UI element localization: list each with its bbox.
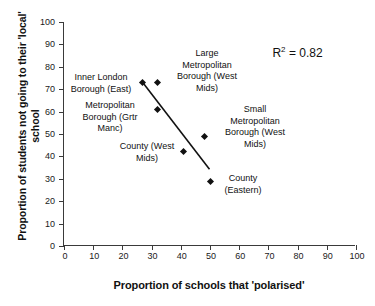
x-tick-label: 90 [323,251,333,261]
x-tick: 10 [93,245,94,250]
x-tick: 90 [327,245,328,250]
y-tick-label: 10 [45,219,55,229]
y-tick-label: 30 [45,174,55,184]
x-tick: 30 [152,245,153,250]
y-tick-label: 100 [40,17,55,27]
y-tick-label: 40 [45,151,55,161]
y-tick-label: 70 [45,84,55,94]
x-tick: 40 [181,245,182,250]
y-tick: 30 [59,179,64,180]
y-tick-label: 0 [50,241,55,251]
x-tick: 70 [268,245,269,250]
annotation-small-metropolitan: Small Metropolitan Borough (West Mids) [209,104,301,150]
x-tick-label: 40 [177,251,187,261]
x-tick: 60 [239,245,240,250]
x-tick-label: 10 [89,251,99,261]
x-tick: 80 [298,245,299,250]
data-point-marker [154,79,161,86]
y-axis-title: Proportion of students not going to thei… [16,1,42,251]
r-squared-value: = 0.82 [286,46,323,60]
y-tick: 40 [59,156,64,157]
r-squared-annotation: R2 = 0.82 [272,45,322,60]
y-tick: 100 [59,22,64,23]
y-tick-label: 20 [45,196,55,206]
x-tick: 50 [210,245,211,250]
x-tick-label: 20 [118,251,128,261]
x-tick: 20 [122,245,123,250]
y-tick: 60 [59,112,64,113]
r-squared-symbol: R [272,46,281,60]
annotation-inner-london: Inner London Borough (East) [58,72,144,95]
y-tick-label: 80 [45,62,55,72]
x-tick: 0 [64,245,65,250]
x-tick-label: 60 [235,251,245,261]
y-tick: 20 [59,201,64,202]
data-point-marker [201,133,208,140]
annotation-large-metropolitan: Large Metropolitan Borough (West Mids) [163,48,251,94]
y-tick: 80 [59,67,64,68]
x-tick-label: 80 [294,251,304,261]
x-tick-label: 100 [349,251,364,261]
annotation-grtr-manc: Metropolitan Borough (Grtr Manc) [70,100,150,135]
annotation-county-west-mids: County (West Mids) [108,141,186,164]
x-tick-label: 30 [148,251,158,261]
data-point-marker [154,106,161,113]
x-axis-title: Proportion of schools that 'polarised' [63,279,355,291]
y-tick-label: 60 [45,107,55,117]
annotation-county-eastern: County (Eastern) [210,173,276,196]
y-tick: 90 [59,44,64,45]
y-tick: 10 [59,224,64,225]
x-tick-label: 0 [62,251,67,261]
x-tick-label: 50 [206,251,216,261]
y-tick-label: 50 [45,129,55,139]
x-tick-label: 70 [264,251,274,261]
x-tick: 100 [356,245,357,250]
scatter-chart-figure: Proportion of students not going to thei… [0,0,375,306]
y-tick: 50 [59,134,64,135]
y-tick-label: 90 [45,39,55,49]
